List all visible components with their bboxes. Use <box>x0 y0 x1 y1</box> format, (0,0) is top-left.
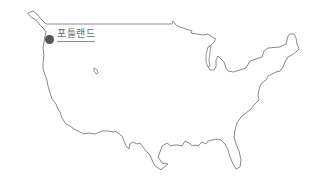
location-dot-icon[interactable] <box>45 35 54 44</box>
usa-outline-map <box>0 0 318 188</box>
city-label-portland[interactable]: 포틀랜드 <box>57 28 95 42</box>
map-container: 포틀랜드 <box>0 0 318 188</box>
